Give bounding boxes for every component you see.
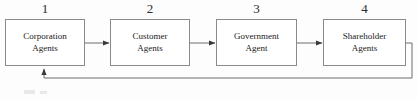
node-government-agent-line1: Government (234, 31, 279, 43)
node-number-1-text: 1 (42, 1, 49, 16)
node-corporation-agents-line2: Agents (32, 43, 58, 55)
node-customer-agents[interactable]: Customer Agents (110, 19, 190, 66)
node-corporation-agents-line1: Corporation (23, 31, 67, 43)
node-number-4: 4 (323, 2, 406, 15)
node-shareholder-agents-line2: Agents (352, 43, 378, 55)
scan-artifact-1 (24, 90, 35, 94)
node-customer-agents-line2: Agents (137, 43, 163, 55)
node-shareholder-agents-line1: Shareholder (343, 31, 386, 43)
node-number-3-text: 3 (253, 1, 260, 16)
node-number-3: 3 (216, 2, 297, 15)
node-government-agent-line2: Agent (246, 43, 268, 55)
scan-artifact-2 (40, 91, 47, 94)
node-corporation-agents[interactable]: Corporation Agents (5, 19, 85, 66)
flow-diagram: 1 Corporation Agents 2 Customer Agents 3… (0, 0, 418, 99)
node-number-2-text: 2 (147, 1, 154, 16)
node-government-agent[interactable]: Government Agent (216, 19, 297, 66)
node-number-1: 1 (5, 2, 85, 15)
node-number-2: 2 (110, 2, 190, 15)
node-shareholder-agents[interactable]: Shareholder Agents (323, 19, 406, 66)
node-number-4-text: 4 (361, 1, 368, 16)
node-customer-agents-line1: Customer (133, 31, 168, 43)
